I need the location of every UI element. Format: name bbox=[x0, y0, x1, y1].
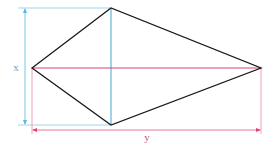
y-arrow-right-icon bbox=[256, 128, 261, 132]
x-arrow-bottom-icon bbox=[23, 120, 27, 125]
x-label: x bbox=[13, 61, 19, 73]
kite-outline bbox=[32, 8, 261, 125]
x-arrow-top-icon bbox=[23, 8, 27, 13]
y-label: y bbox=[144, 131, 150, 143]
y-arrow-left-icon bbox=[32, 128, 37, 132]
kite-diagram: x y bbox=[0, 0, 275, 147]
